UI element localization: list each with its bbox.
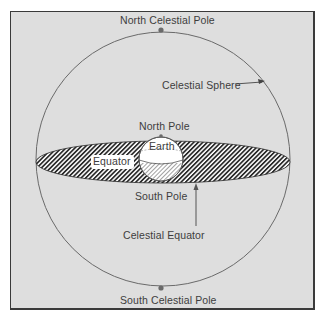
north-pole-dot [159,134,163,138]
label-south-pole: South Pole [135,190,187,202]
arrowhead-icon [194,183,199,190]
north-celestial-pole-dot [158,27,163,32]
label-celestial-equator: Celestial Equator [123,229,205,241]
label-earth: Earth [149,140,175,152]
label-north-celestial-pole: North Celestial Pole [120,14,215,26]
celestial-sphere-diagram [0,0,326,318]
arrowhead-icon [258,79,265,84]
south-celestial-pole-dot [158,285,163,290]
label-south-celestial-pole: South Celestial Pole [120,294,217,306]
label-equator: Equator [93,155,130,167]
label-north-pole: North Pole [139,120,190,132]
label-celestial-sphere: Celestial Sphere [162,79,241,91]
